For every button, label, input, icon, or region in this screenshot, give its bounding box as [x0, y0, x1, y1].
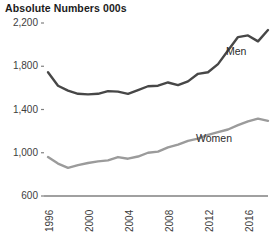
line-chart: Absolute Numbers 000s 6001,0001,4001,800…	[0, 0, 270, 245]
series-line-women	[48, 119, 268, 168]
series-label-women: Women	[196, 132, 232, 144]
plot-area	[0, 0, 270, 245]
axis-tick-marks	[41, 23, 44, 196]
series-label-men: Men	[226, 45, 246, 57]
series-line-men	[48, 30, 268, 94]
